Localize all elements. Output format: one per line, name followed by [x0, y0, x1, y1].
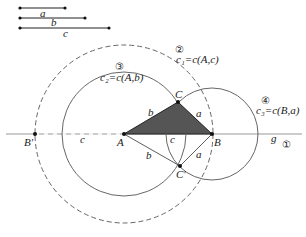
- segment-legend: a b c: [18, 6, 110, 39]
- construction-diagram: a b c A B C C' B' b a c c b a ② c₁=c(A,c…: [0, 0, 306, 237]
- circle-c1-label: c₁=c(A,c): [176, 53, 219, 66]
- circle-c2-label: c₂=c(A,b): [100, 71, 144, 84]
- side-c-mid: c: [170, 133, 175, 145]
- point-C: [176, 100, 180, 104]
- label-C: C: [175, 88, 183, 100]
- side-b-upper: b: [148, 106, 154, 118]
- side-a-lower: a: [196, 148, 202, 160]
- label-A: A: [116, 136, 124, 148]
- label-B: B: [214, 136, 221, 148]
- segment-a-label: a: [40, 7, 46, 19]
- label-C-prime: C': [176, 168, 186, 180]
- label-B-prime: B': [24, 136, 34, 148]
- side-a-upper: a: [196, 107, 202, 119]
- line-g-label: g: [271, 132, 277, 144]
- side-b-lower: b: [146, 149, 152, 161]
- side-c-left: c: [80, 133, 85, 145]
- segment-b-label: b: [51, 16, 57, 28]
- circle-c3-label: c₃=c(B,a): [256, 104, 300, 117]
- step-1-marker: ①: [282, 139, 291, 150]
- segment-c-label: c: [63, 27, 68, 39]
- point-B-prime: [33, 132, 37, 136]
